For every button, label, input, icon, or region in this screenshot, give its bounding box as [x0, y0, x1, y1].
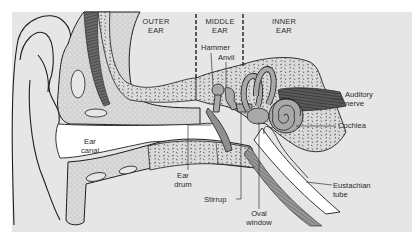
- label-ear-canal-1: Ear: [84, 137, 96, 146]
- inner-ear-header-1: INNER: [272, 17, 296, 26]
- cartilage-void: [85, 109, 107, 117]
- label-eustachian-tube-1: Eustachian: [333, 181, 371, 190]
- label-auditory-nerve-2: nerve: [345, 99, 364, 108]
- inner-ear-header-2: EAR: [276, 26, 292, 35]
- middle-ear-header-1: MIDDLE: [205, 17, 234, 26]
- label-auditory-nerve-1: Auditory: [345, 90, 373, 99]
- hammer-head: [212, 84, 224, 96]
- label-hammer: Hammer: [201, 43, 231, 52]
- middle-ear-header-2: EAR: [212, 26, 228, 35]
- outer-ear-header-1: OUTER: [143, 17, 170, 26]
- label-cochlea: Cochlea: [338, 121, 367, 130]
- label-eustachian-tube-2: tube: [333, 190, 348, 199]
- label-ear-canal-2: canal: [81, 146, 99, 155]
- ear-anatomy-diagram: OUTER EAR MIDDLE EAR INNER EAR Hammer An…: [0, 0, 418, 241]
- label-stirrup: Stirrup: [204, 195, 226, 204]
- cartilage-void: [71, 70, 85, 98]
- label-anvil: Anvil: [218, 53, 235, 62]
- cochlea: [269, 98, 303, 133]
- diagram-canvas: OUTER EAR MIDDLE EAR INNER EAR Hammer An…: [0, 0, 418, 241]
- label-oval-window-1: Oval: [251, 209, 267, 218]
- outer-ear-header-2: EAR: [148, 26, 164, 35]
- label-ear-drum-1: Ear: [177, 171, 189, 180]
- vestibule: [247, 108, 269, 124]
- label-oval-window-2: window: [245, 218, 272, 227]
- label-ear-drum-2: drum: [174, 180, 191, 189]
